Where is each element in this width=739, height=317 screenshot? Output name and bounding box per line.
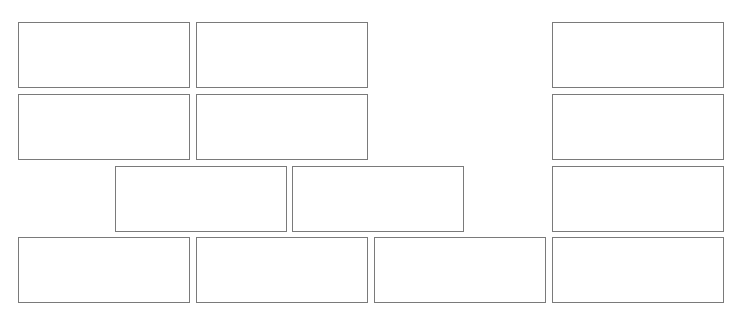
box-row2-col1 — [18, 94, 190, 160]
box-row4-col2 — [196, 237, 368, 303]
box-grid-diagram — [0, 0, 739, 317]
box-row4-col1 — [18, 237, 190, 303]
box-row4-col4 — [552, 237, 724, 303]
box-row1-col4 — [552, 22, 724, 88]
box-row1-col1 — [18, 22, 190, 88]
box-row3-col4 — [552, 166, 724, 232]
box-row3-col1 — [115, 166, 287, 232]
box-row4-col3 — [374, 237, 546, 303]
box-row3-col2 — [292, 166, 464, 232]
box-row2-col4 — [552, 94, 724, 160]
box-row1-col2 — [196, 22, 368, 88]
box-row2-col2 — [196, 94, 368, 160]
